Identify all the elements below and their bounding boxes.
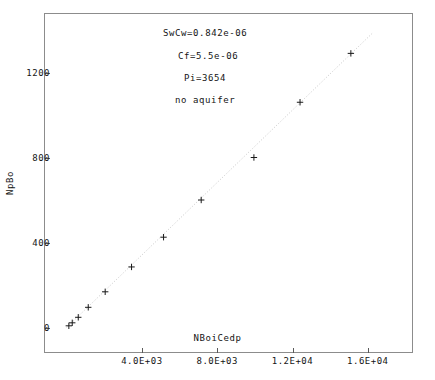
data-point-marker [198, 197, 204, 203]
data-point-marker [128, 264, 134, 270]
chart-annotation: no aquifer [175, 95, 235, 105]
data-point-marker [75, 314, 81, 320]
data-point-marker [348, 50, 354, 56]
data-point-marker [251, 154, 257, 160]
x-tick-label: 1.6E+04 [347, 356, 388, 366]
y-tick-label: 1200 [26, 68, 50, 78]
y-axis-label: NpBo [5, 171, 15, 195]
data-point-marker [160, 234, 166, 240]
x-tick-mark [217, 348, 218, 353]
chart-annotation: Cf=5.5e-06 [178, 51, 238, 61]
y-tick-label: 400 [32, 238, 50, 248]
y-tick-label: 0 [44, 323, 50, 333]
x-axis-label: NBoiCedp [0, 333, 435, 343]
data-point-marker [66, 323, 72, 329]
data-layer [44, 13, 413, 353]
data-point-marker [102, 289, 108, 295]
x-tick-label: 4.0E+03 [121, 356, 162, 366]
chart-canvas: 4.0E+038.0E+031.2E+041.6E+04 04008001200… [0, 0, 435, 380]
chart-annotation: SwCw=0.842e-06 [163, 28, 247, 38]
y-tick-label: 800 [32, 153, 50, 163]
x-tick-mark [293, 348, 294, 353]
data-point-marker [85, 304, 91, 310]
x-tick-label: 8.0E+03 [196, 356, 237, 366]
data-point-marker [69, 320, 75, 326]
x-tick-label: 1.2E+04 [272, 356, 313, 366]
x-tick-mark [368, 348, 369, 353]
x-tick-mark [142, 348, 143, 353]
chart-annotation: Pi=3654 [184, 73, 226, 83]
